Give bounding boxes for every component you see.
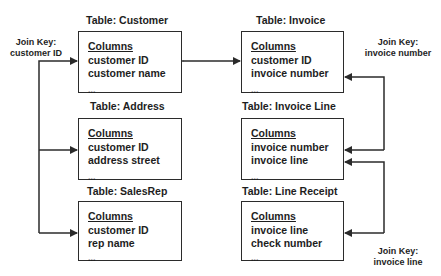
- table-title-customer: Table: Customer: [86, 14, 168, 26]
- column-item: rep name: [88, 237, 149, 251]
- columns-header: Columns: [251, 40, 329, 54]
- table-title-invoice: Table: Invoice: [256, 14, 325, 26]
- columns-header: Columns: [251, 210, 322, 224]
- column-item: customer ID: [88, 224, 149, 238]
- column-item: customer ID: [88, 141, 160, 155]
- invoice-line-connector: [345, 162, 384, 233]
- columns-header: Columns: [88, 210, 149, 224]
- column-item: customer ID: [88, 54, 166, 68]
- columns-header: Columns: [88, 127, 160, 141]
- more-columns: ...: [88, 254, 96, 263]
- more-columns: ...: [251, 86, 259, 95]
- join-key-invoice-number: Join Key: invoice number: [355, 37, 441, 58]
- columns-header: Columns: [251, 127, 329, 141]
- column-item: invoice line: [251, 154, 329, 168]
- column-item: customer ID: [251, 54, 329, 68]
- table-customer: Columns customer ID customer name ...: [78, 31, 182, 93]
- more-columns: ...: [88, 173, 96, 182]
- columns-header: Columns: [88, 40, 166, 54]
- more-columns: ...: [251, 173, 259, 182]
- table-invoice: Columns customer ID invoice number ...: [241, 31, 344, 93]
- column-item: invoice number: [251, 67, 329, 81]
- invoice-number-connector: [345, 77, 384, 150]
- column-item: check number: [251, 237, 322, 251]
- table-salesrep: Columns customer ID rep name ...: [78, 201, 182, 261]
- table-title-address: Table: Address: [90, 100, 165, 112]
- table-address: Columns customer ID address street ...: [78, 118, 182, 180]
- table-title-invoice-line: Table: Invoice Line: [242, 100, 336, 112]
- join-key-customer-id: Join Key: customer ID: [6, 37, 66, 58]
- customer-to-customer-arrow: [39, 61, 77, 233]
- column-item: customer name: [88, 67, 166, 81]
- join-key-invoice-line: Join Key: invoice line: [360, 246, 436, 267]
- table-invoice-line: Columns invoice number invoice line ...: [241, 118, 344, 180]
- more-columns: ...: [88, 86, 96, 95]
- column-item: invoice line: [251, 224, 322, 238]
- column-item: address street: [88, 154, 160, 168]
- table-line-receipt: Columns invoice line check number ...: [241, 201, 344, 261]
- more-columns: ...: [251, 254, 259, 263]
- table-title-salesrep: Table: SalesRep: [87, 185, 167, 197]
- column-item: invoice number: [251, 141, 329, 155]
- table-title-line-receipt: Table: Line Receipt: [242, 185, 338, 197]
